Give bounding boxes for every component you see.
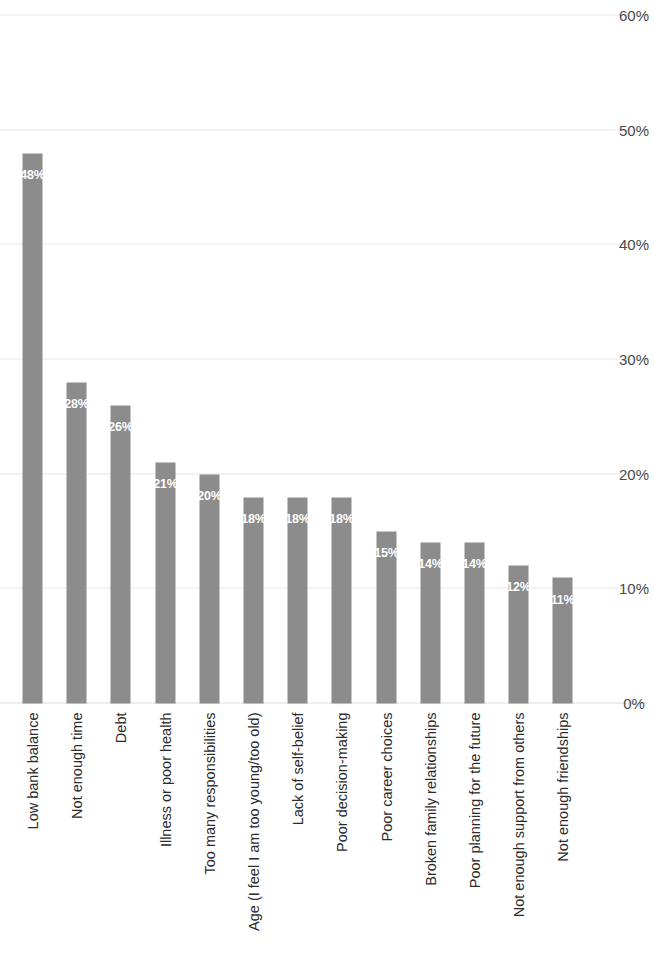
value-axis-tick-0%: 0% [604, 695, 654, 712]
category-label: Age (I feel I am too young/too old) [243, 712, 263, 930]
category-label: Poor planning for the future [464, 712, 484, 888]
category-label: Debt [110, 712, 130, 743]
value-axis-tick-20%: 20% [604, 465, 654, 482]
value-axis-tick-30%: 30% [604, 351, 654, 368]
category-label: Lack of self-belief [287, 712, 307, 825]
category-label: Poor career choices [376, 712, 396, 841]
value-axis-tick-10%: 10% [604, 580, 654, 597]
category-label: Too many responsibilities [199, 712, 219, 874]
category-label: Illness or poor health [155, 712, 175, 847]
category-label: Not enough time [66, 712, 86, 818]
category-label: Poor decision-making [331, 712, 351, 851]
value-axis-tick-60%: 60% [604, 7, 654, 24]
category-axis: Low bank balanceNot enough timeDebtIllne… [0, 712, 647, 980]
value-axis-tick-40%: 40% [604, 236, 654, 253]
category-label: Not enough friendships [552, 712, 572, 861]
category-label: Broken family relationships [420, 712, 440, 885]
category-label: Not enough support from others [508, 712, 528, 917]
category-label: Low bank balance [22, 712, 42, 829]
value-axis-tick-50%: 50% [604, 121, 654, 138]
